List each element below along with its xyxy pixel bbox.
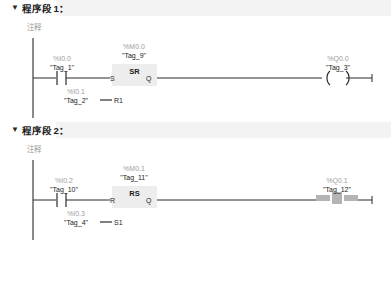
network-1-title-prefix: 程序段 (22, 3, 53, 14)
network-1-title-field[interactable] (69, 0, 391, 16)
network-2-block-input-s1: S1 (114, 218, 128, 227)
network-2-collapse-triangle-icon[interactable]: ▼ (8, 126, 22, 134)
network-1-rung-graphics (0, 34, 391, 122)
network-1-comment[interactable]: 注释 (0, 16, 391, 34)
network-1-contact-tag[interactable]: "Tag_1" (42, 63, 82, 72)
network-1-block-tag[interactable]: "Tag_9" (110, 51, 158, 60)
network-2-block-tag[interactable]: "Tag_11" (110, 173, 158, 182)
network-2-title-field[interactable] (69, 122, 391, 138)
network-2-header[interactable]: ▼ 程序段2： (0, 122, 391, 138)
network-2-rung: %I0.2 "Tag_10" %M0.1 "Tag_11" RS R Q S1 … (0, 156, 391, 244)
network-1-coil-tag[interactable]: "Tag_3" (316, 63, 360, 72)
network-1-block-output-q: Q (146, 74, 158, 83)
network-1-contact-address: %I0.0 (42, 54, 82, 63)
network-2-coil-tag[interactable]: "Tag_12" (315, 185, 359, 194)
network-2-coil-right-segment[interactable] (344, 195, 358, 201)
network-2-comment[interactable]: 注释 (0, 138, 391, 156)
network-1-coil-address: %Q0.0 (316, 54, 360, 63)
network-1-block-address: %M0.0 (110, 42, 158, 51)
network-2-contact-address: %I0.2 (42, 176, 86, 185)
network-1: ▼ 程序段1： 注释 (0, 0, 391, 122)
network-2-block-output-q: Q (146, 196, 158, 205)
network-1-collapse-triangle-icon[interactable]: ▼ (8, 4, 22, 12)
network-2-s1-source-address: %I0.3 (53, 209, 99, 218)
network-2-title-prefix: 程序段 (22, 125, 53, 136)
network-2-block-address: %M0.1 (110, 164, 158, 173)
network-1-rung: %I0.0 "Tag_1" %M0.0 "Tag_9" SR S Q R1 %I… (0, 34, 391, 122)
network-2-coil-left-segment[interactable] (316, 195, 330, 201)
network-2-block-input-r: R (110, 196, 120, 205)
network-2-title: 程序段2： (22, 123, 69, 137)
network-2-contact-tag[interactable]: "Tag_10" (42, 185, 86, 194)
network-2-coil-address: %Q0.1 (315, 176, 359, 185)
network-1-block-input-s: S (110, 74, 120, 83)
network-1-r1-source-tag[interactable]: "Tag_2" (53, 96, 99, 105)
network-1-title-colon: ： (59, 3, 69, 14)
network-1-title: 程序段1： (22, 1, 69, 15)
network-1-block-input-r1: R1 (114, 96, 128, 105)
network-2-s1-source-tag[interactable]: "Tag_4" (53, 218, 99, 227)
network-2-title-colon: ： (59, 125, 69, 136)
network-2: ▼ 程序段2： 注释 (0, 122, 391, 244)
network-1-header[interactable]: ▼ 程序段1： (0, 0, 391, 16)
lad-editor-canvas: ▼ 程序段1： 注释 (0, 0, 391, 289)
network-1-r1-source-address: %I0.1 (53, 87, 99, 96)
